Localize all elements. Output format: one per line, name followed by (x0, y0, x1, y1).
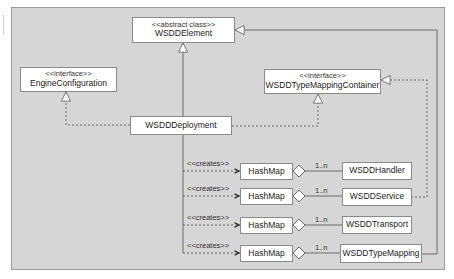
class-engine-configuration: <<interface>> EngineConfiguration (20, 67, 117, 92)
class-name: WSDDDeployment (145, 121, 216, 131)
creates-label-1: <<creates>> (187, 159, 229, 168)
class-name: HashMap (248, 192, 284, 202)
class-wsdd-service: WSDDService (342, 188, 412, 206)
aggregation-diamond-3 (293, 219, 305, 231)
class-wsdd-transport: WSDDTransport (342, 216, 412, 234)
realization-deployment-container (232, 94, 318, 126)
multiplicity-label-1: 1..n (315, 161, 328, 170)
class-wsdd-type-mapping: WSDDTypeMapping (340, 244, 422, 263)
aggregation-diamond-4 (293, 247, 305, 259)
creates-label-4: <<creates>> (187, 241, 229, 250)
multiplicity-label-3: 1..n (315, 215, 328, 224)
multiplicity-label-4: 1..n (315, 243, 328, 252)
class-hashmap-2: HashMap (240, 188, 293, 205)
class-wsdd-deployment: WSDDDeployment (130, 116, 232, 135)
creates-label-3: <<creates>> (187, 213, 229, 222)
class-name: EngineConfiguration (30, 79, 107, 89)
class-hashmap-1: HashMap (240, 163, 293, 180)
class-wsdd-handler: WSDDHandler (342, 162, 412, 180)
class-name: WSDDHandler (349, 166, 405, 176)
class-name: WSDDTypeMappingContainer (266, 81, 380, 91)
class-name: WSDDTypeMapping (342, 249, 419, 259)
class-wsdd-element: <<abstract class>> WSDDElement (132, 17, 235, 43)
class-name: HashMap (248, 221, 284, 231)
multiplicity-label-2: 1..n (315, 186, 328, 195)
class-hashmap-4: HashMap (240, 245, 293, 262)
realization-deployment-engineconfig (66, 92, 130, 125)
aggregation-diamond-1 (293, 165, 305, 177)
class-name: WSDDElement (155, 29, 212, 39)
class-name: WSDDService (350, 192, 404, 202)
class-name: HashMap (248, 167, 284, 177)
class-hashmap-3: HashMap (240, 217, 293, 234)
class-wsdd-type-mapping-container: <<interface>> WSDDTypeMappingContainer (264, 69, 381, 94)
class-name: WSDDTransport (346, 220, 408, 230)
creates-label-2: <<creates>> (187, 184, 229, 193)
class-name: HashMap (248, 249, 284, 259)
aggregation-diamond-2 (293, 190, 305, 202)
